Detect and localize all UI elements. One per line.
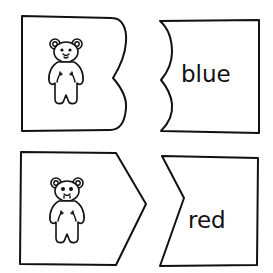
puzzle-scene — [0, 0, 273, 273]
picture-piece-2[interactable] — [20, 152, 146, 265]
word-label-blue: blue — [181, 63, 231, 86]
picture-piece-1[interactable] — [22, 16, 126, 131]
word-label-red: red — [188, 209, 226, 232]
